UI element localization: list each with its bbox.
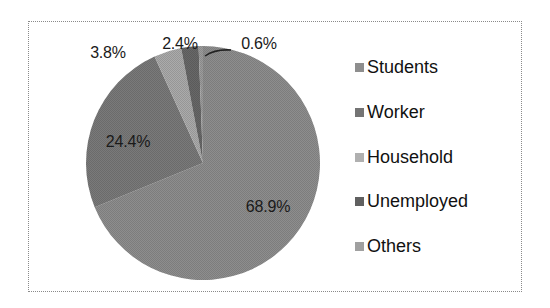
- legend-item-others: Others: [355, 236, 421, 257]
- legend-swatch-students: [355, 63, 364, 72]
- legend-item-household: Household: [355, 147, 453, 168]
- legend-label: Worker: [367, 102, 425, 123]
- label-students: 68.9%: [246, 198, 290, 216]
- label-others: 0.6%: [241, 35, 277, 53]
- legend-swatch-unemployed: [355, 197, 364, 206]
- legend-label: Others: [367, 236, 421, 257]
- legend-label: Household: [367, 147, 453, 168]
- label-household: 3.8%: [90, 44, 126, 62]
- label-unemployed: 2.4%: [162, 35, 198, 53]
- legend-swatch-household: [355, 153, 364, 162]
- legend-item-unemployed: Unemployed: [355, 191, 468, 212]
- legend-label: Unemployed: [367, 191, 468, 212]
- legend-item-worker: Worker: [355, 102, 425, 123]
- legend-item-students: Students: [355, 57, 438, 78]
- legend-swatch-others: [355, 242, 364, 251]
- legend-swatch-worker: [355, 108, 364, 117]
- legend-label: Students: [367, 57, 438, 78]
- pie-slices: [86, 46, 320, 280]
- label-worker: 24.4%: [106, 133, 150, 151]
